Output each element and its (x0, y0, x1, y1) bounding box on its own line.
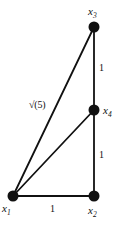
edge-group (13, 27, 94, 196)
graph-figure: x1 x2 x3 x4 1 1 1 √(5) (0, 0, 122, 229)
node-label-x4-subscript: 4 (108, 110, 112, 119)
node-x4[interactable] (89, 105, 100, 116)
node-label-x1-subscript: 1 (7, 208, 11, 217)
node-label-x3: x3 (88, 6, 97, 17)
node-label-x2-subscript: 2 (93, 210, 97, 219)
edge-x1-x3 (13, 27, 94, 196)
edge-label-x1-x2: 1 (50, 204, 55, 214)
node-label-x4: x4 (103, 105, 112, 116)
edge-label-x2-x4: 1 (99, 150, 104, 160)
node-x2[interactable] (89, 191, 100, 202)
edge-label-x4-x3: 1 (99, 63, 104, 73)
node-x1[interactable] (8, 191, 19, 202)
edge-x1-x4 (13, 110, 94, 196)
edge-label-x1-x3: √(5) (29, 100, 45, 110)
node-label-x3-subscript: 3 (93, 11, 97, 20)
node-x3[interactable] (89, 22, 100, 33)
node-label-x1: x1 (2, 203, 11, 214)
node-label-x2: x2 (88, 205, 97, 216)
